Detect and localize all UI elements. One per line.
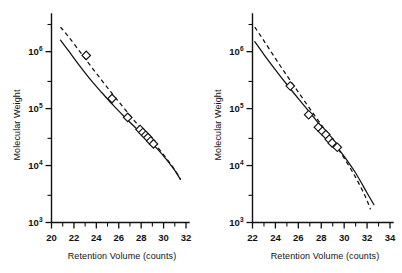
y-axis-title-text: Molecular Weight xyxy=(12,89,22,160)
x-axis-title-right: Retention Volume (counts) xyxy=(271,251,380,261)
x-tick-label: 24 xyxy=(91,232,102,243)
chart-panel-left: Molecular Weight 103104105106 2022242628… xyxy=(0,0,201,273)
y-tick-label: 103 xyxy=(28,216,43,228)
data-points-left xyxy=(82,51,158,148)
y-tick-label: 105 xyxy=(28,102,43,114)
axis-frame xyxy=(52,14,190,223)
x-ticks-right xyxy=(253,223,391,229)
y-ticks-left xyxy=(46,25,52,223)
y-tick-label: 103 xyxy=(229,216,244,228)
x-tick-label: 20 xyxy=(46,232,57,243)
axis-lines-left xyxy=(52,14,190,223)
solid-calibration-curve xyxy=(60,40,180,179)
x-tick-label: 32 xyxy=(362,232,373,243)
x-tick-label: 30 xyxy=(158,232,169,243)
y-tick-labels-left: 103104105106 xyxy=(28,45,43,228)
figure-container: Molecular Weight 103104105106 2022242628… xyxy=(0,0,402,273)
x-tick-label: 24 xyxy=(270,232,281,243)
x-tick-labels-right: 22242628303234 xyxy=(247,232,396,243)
y-tick-label: 106 xyxy=(28,45,43,57)
axis-lines-right xyxy=(253,14,394,223)
dashed-calibration-curve xyxy=(60,27,180,179)
x-tick-label: 30 xyxy=(339,232,350,243)
y-ticks-right xyxy=(247,25,253,223)
y-tick-label: 104 xyxy=(28,159,43,171)
y-axis-title-left: Molecular Weight xyxy=(12,89,22,160)
y-axis-title-text: Molecular Weight xyxy=(213,89,223,160)
x-tick-labels-left: 20222426283032 xyxy=(46,232,191,243)
data-point-marker xyxy=(82,51,90,59)
y-tick-label: 105 xyxy=(229,102,244,114)
x-axis-title-left: Retention Volume (counts) xyxy=(68,251,177,261)
x-tick-label: 26 xyxy=(293,232,304,243)
axis-frame xyxy=(253,14,394,223)
dashed-calibration-curve xyxy=(255,27,371,209)
y-tick-label: 104 xyxy=(229,159,244,171)
solid-calibration-curve xyxy=(255,42,374,205)
x-tick-label: 28 xyxy=(136,232,147,243)
x-tick-label: 28 xyxy=(316,232,327,243)
y-axis-title-right: Molecular Weight xyxy=(213,89,223,160)
data-point-marker xyxy=(304,111,312,119)
data-point-marker xyxy=(286,82,294,90)
curves-left xyxy=(60,27,180,179)
x-tick-label: 22 xyxy=(69,232,80,243)
x-tick-label: 26 xyxy=(113,232,124,243)
chart-svg-left: Molecular Weight 103104105106 2022242628… xyxy=(0,0,201,273)
y-tick-label: 106 xyxy=(229,45,244,57)
data-point-marker xyxy=(123,113,131,121)
y-tick-labels-right: 103104105106 xyxy=(229,45,244,228)
x-tick-label: 32 xyxy=(181,232,192,243)
x-tick-label: 22 xyxy=(247,232,258,243)
chart-panel-right: Molecular Weight 103104105106 2224262830… xyxy=(201,0,402,273)
chart-svg-right: Molecular Weight 103104105106 2224262830… xyxy=(201,0,402,273)
x-ticks-left xyxy=(52,223,187,229)
curves-right xyxy=(255,27,374,209)
x-tick-label: 34 xyxy=(385,232,396,243)
